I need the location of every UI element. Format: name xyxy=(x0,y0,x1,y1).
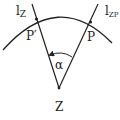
point-p xyxy=(89,20,92,23)
label-p: P xyxy=(87,30,95,44)
point-z xyxy=(58,87,61,90)
line-l-zp xyxy=(59,4,98,88)
point-p-prime xyxy=(35,17,38,20)
label-z: Z xyxy=(55,100,63,114)
line-l-z xyxy=(32,4,59,88)
angle-arc-arrow xyxy=(50,53,72,57)
label-l-zp: lZP xyxy=(105,4,119,19)
label-l-z: lZ xyxy=(16,4,26,19)
geometry-diagram: lZ lZP P′ P α Z xyxy=(0,0,120,120)
label-p-prime: P′ xyxy=(26,29,37,43)
label-alpha: α xyxy=(55,58,63,72)
circle-arc xyxy=(3,17,112,50)
